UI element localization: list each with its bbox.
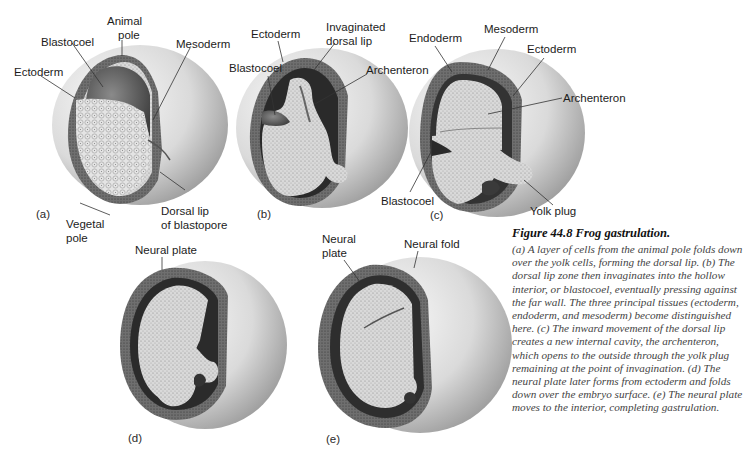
panel-tag-e: (e) bbox=[326, 433, 340, 445]
label-neural-fold: Neural fold bbox=[404, 238, 460, 251]
panel-c-embryo bbox=[409, 49, 585, 217]
panel-tag-d: (d) bbox=[128, 432, 142, 444]
caption-body: (a) A layer of cells from the animal pol… bbox=[512, 243, 744, 415]
label-vegetal-pole-line1: Vegetal bbox=[66, 218, 104, 231]
label-dorsal-lip-line2: of blastopore bbox=[161, 219, 228, 232]
label-animal-pole-line2: pole bbox=[118, 29, 140, 42]
label-archenteron-c: Archenteron bbox=[563, 92, 626, 105]
panel-tag-a: (a) bbox=[36, 208, 50, 220]
label-invaginated-line1: Invaginated bbox=[326, 21, 385, 34]
caption-title: Figure 44.8 Frog gastrulation. bbox=[512, 226, 744, 241]
label-blastocoel-a: Blastocoel bbox=[41, 36, 94, 49]
panel-tag-b: (b) bbox=[257, 208, 271, 220]
label-invaginated-line2: dorsal lip bbox=[326, 35, 372, 48]
label-ectoderm-b: Ectoderm bbox=[251, 28, 300, 41]
panel-e-embryo bbox=[318, 257, 512, 433]
panel-a-embryo bbox=[52, 45, 228, 205]
label-ectoderm-c: Ectoderm bbox=[527, 43, 576, 56]
label-mesoderm-a: Mesoderm bbox=[176, 38, 230, 51]
label-blastocoel-c: Blastocoel bbox=[381, 195, 434, 208]
label-yolk-plug: Yolk plug bbox=[530, 205, 576, 218]
label-archenteron-b: Archenteron bbox=[366, 64, 429, 77]
label-ectoderm-a: Ectoderm bbox=[14, 66, 63, 79]
label-endoderm-c: Endoderm bbox=[409, 32, 462, 45]
label-dorsal-lip-line1: Dorsal lip bbox=[161, 205, 209, 218]
label-blastocoel-b: Blastocoel bbox=[229, 62, 282, 75]
label-neural-plate-e-line1: Neural bbox=[322, 233, 356, 246]
label-vegetal-pole-line2: pole bbox=[66, 232, 88, 245]
panel-tag-c: (c) bbox=[430, 209, 443, 221]
panel-d-embryo bbox=[120, 261, 287, 429]
label-neural-plate-d: Neural plate bbox=[135, 244, 197, 257]
figure-caption: Figure 44.8 Frog gastrulation. (a) A lay… bbox=[512, 226, 744, 415]
label-mesoderm-c: Mesoderm bbox=[484, 23, 538, 36]
label-animal-pole-line1: Animal bbox=[107, 15, 142, 28]
label-neural-plate-e-line2: plate bbox=[322, 247, 347, 260]
